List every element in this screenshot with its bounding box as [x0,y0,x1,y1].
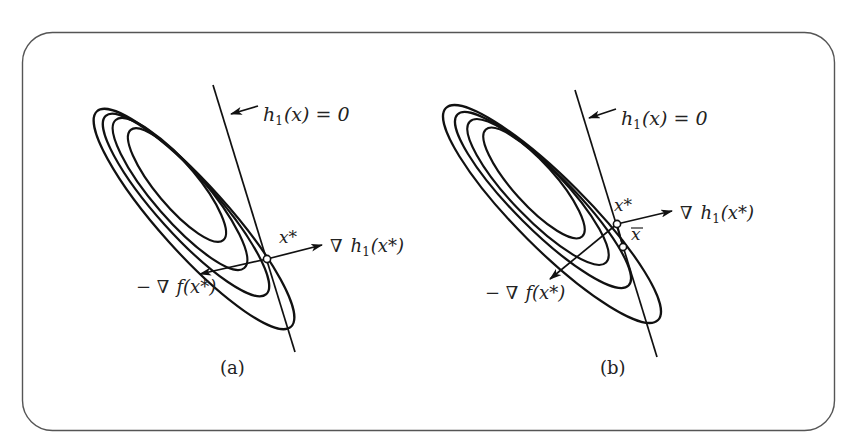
optimum-label: x* [614,195,633,215]
optimum-label: x* [279,227,298,247]
x-bar-label: x [631,224,641,244]
panel-caption: (b) [600,357,626,378]
optimum-point [263,255,270,262]
figure-frame [23,33,835,431]
x-bar-point [619,243,626,250]
optimum-point [613,220,620,227]
figure-canvas: h1(x) = 0 x* ∇h1(x*) − ∇f(x*) (a) h1(x) … [0,0,853,446]
neg-grad-f-label: − ∇f(x*) [136,276,216,297]
panel-caption: (a) [220,357,245,378]
neg-grad-f-label: − ∇f(x*) [485,282,565,303]
